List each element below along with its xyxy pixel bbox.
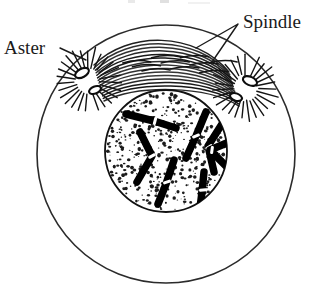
stipple-dot [136, 173, 137, 174]
stipple-dot [199, 143, 202, 146]
stipple-dot [159, 130, 162, 132]
stipple-dot [106, 150, 110, 154]
stipple-dot [125, 193, 127, 195]
stipple-dot [108, 159, 111, 162]
stipple-dot [119, 159, 122, 161]
stipple-dot [208, 177, 210, 179]
stipple-dot [148, 125, 152, 129]
stipple-dot [150, 190, 152, 191]
stipple-dot [165, 110, 167, 112]
stipple-dot [148, 189, 149, 190]
stipple-dot [150, 185, 154, 189]
stipple-dot [161, 115, 164, 117]
stipple-dot [154, 172, 156, 174]
stipple-dot [171, 180, 174, 183]
stipple-dot [116, 132, 118, 133]
stipple-dot [131, 131, 135, 134]
stipple-dot [195, 161, 196, 162]
stipple-dot [133, 168, 137, 171]
stipple-dot [168, 96, 171, 99]
stipple-dot [185, 115, 188, 118]
stipple-dot [121, 147, 124, 150]
stipple-dot [151, 125, 154, 128]
stipple-dot [124, 134, 126, 135]
stipple-dot [183, 196, 185, 197]
stipple-dot [173, 99, 175, 101]
stipple-dot [121, 181, 123, 182]
stipple-dot [122, 187, 125, 190]
stipple-dot [149, 180, 152, 183]
stipple-dot [157, 178, 158, 179]
label-spindle: Spindle [243, 11, 301, 32]
stipple-dot [170, 146, 172, 147]
stipple-dot [117, 159, 118, 160]
stipple-dot [109, 151, 111, 152]
stipple-dot [175, 150, 176, 151]
stipple-dot [123, 163, 126, 165]
stipple-dot [121, 166, 123, 168]
stipple-dot [186, 127, 188, 129]
stipple-dot [113, 165, 116, 169]
stipple-dot [193, 181, 195, 183]
stipple-dot [151, 166, 154, 169]
stipple-dot [158, 141, 160, 142]
stipple-dot [192, 108, 196, 112]
stipple-dot [219, 136, 222, 138]
stipple-dot [111, 127, 114, 130]
stipple-dot [196, 157, 200, 161]
stipple-dot [185, 184, 187, 186]
stipple-dot [157, 160, 158, 161]
stipple-dot [178, 115, 180, 117]
stipple-dot [141, 149, 144, 151]
stipple-dot [184, 199, 186, 201]
stipple-dot [125, 139, 127, 140]
stipple-dot [206, 185, 208, 187]
stipple-dot [134, 105, 136, 107]
stipple-dot [159, 139, 163, 142]
stipple-dot [181, 165, 183, 167]
stipple-dot [172, 141, 173, 142]
stipple-dot [188, 184, 189, 185]
stipple-dot [117, 179, 119, 181]
stipple-dot [108, 146, 111, 148]
stipple-dot [177, 110, 179, 112]
stipple-dot [164, 113, 166, 114]
stipple-dot [166, 194, 169, 198]
stipple-dot [193, 170, 194, 171]
stipple-dot [118, 128, 121, 130]
stipple-dot [136, 103, 138, 104]
mitosis-diagram-figure: Aster Spindle [0, 0, 324, 291]
stipple-dot [176, 122, 178, 124]
stipple-dot [170, 131, 172, 134]
stipple-dot [173, 95, 177, 99]
stipple-dot [133, 125, 137, 127]
stipple-dot [121, 116, 123, 119]
stipple-dot [210, 126, 212, 128]
stipple-dot [193, 175, 197, 178]
stipple-dot [111, 135, 115, 138]
aster-ray [259, 89, 276, 90]
stipple-dot [121, 129, 123, 131]
stipple-dot [152, 109, 155, 112]
stipple-dot [175, 193, 176, 194]
stipple-dot [155, 130, 157, 132]
stipple-dot [138, 147, 142, 151]
stipple-dot [138, 156, 139, 157]
stipple-dot [118, 142, 121, 145]
stipple-dot [160, 176, 162, 178]
stipple-dot [152, 95, 155, 98]
stipple-dot [147, 173, 149, 174]
stipple-dot [177, 100, 180, 103]
stipple-dot [109, 155, 110, 156]
stipple-dot [134, 144, 135, 146]
stipple-dot [110, 171, 112, 173]
stipple-dot [206, 126, 209, 128]
stipple-dot [183, 125, 185, 126]
stipple-dot [116, 165, 119, 167]
stipple-dot [190, 122, 193, 124]
stipple-dot [171, 103, 173, 104]
stipple-dot [172, 196, 175, 200]
stipple-dot [138, 200, 140, 201]
stipple-dot [119, 131, 120, 132]
diagram-canvas: Aster Spindle [0, 0, 324, 291]
